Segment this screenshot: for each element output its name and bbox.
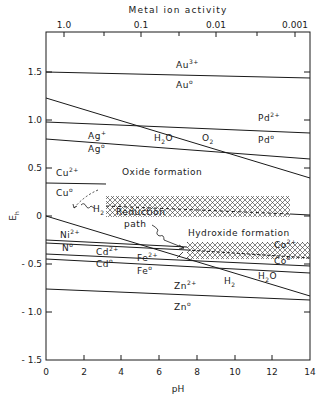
au-line: [46, 72, 310, 78]
x-tick-label: 0: [43, 367, 49, 377]
top-axis-title: Metal ion activity: [128, 5, 227, 15]
zn2-label: Zn2+: [174, 279, 197, 291]
cu-line: [46, 183, 106, 184]
y-tick-label: - 1.5: [22, 355, 42, 365]
y-tick-label: 1.0: [28, 115, 43, 125]
h2-lower-label: H2: [224, 276, 236, 288]
ni0-label: No: [62, 241, 73, 253]
top-tick-label: 0.01: [206, 20, 226, 30]
y-tick-label: - 0.5: [22, 259, 42, 269]
ag-line: [46, 139, 310, 159]
y-tick-label: 0: [36, 211, 42, 221]
co0-label: Coo: [274, 254, 291, 266]
reduction-label: Reduction: [116, 207, 166, 217]
x-tick-label: 4: [118, 367, 124, 377]
x-axis-label: pH: [172, 384, 184, 394]
x-tick-label: 14: [304, 367, 316, 377]
cu2-label: Cu2+: [56, 166, 79, 178]
h2o-upper-label: H2O: [154, 133, 173, 145]
arrow-head-icon: [73, 204, 77, 208]
pd2-label: Pd2+: [258, 111, 280, 123]
ag0-label: Ago: [88, 142, 105, 154]
au0-label: Auo: [176, 78, 193, 90]
reduction-path-arrow: [152, 225, 184, 248]
cd2-label: Cd2+: [96, 245, 119, 257]
x-tick-label: 8: [194, 367, 200, 377]
top-tick-label: 0.001: [282, 20, 308, 30]
top-tick-label: 1.0: [57, 20, 72, 30]
ni2-label: Ni2+: [60, 228, 80, 240]
y-tick-label: 0.5: [28, 163, 42, 173]
oxide-formation-label: Oxide formation: [122, 167, 202, 177]
y-tick-label: 1.5: [28, 67, 42, 77]
h2-upper-label: H2: [93, 204, 105, 216]
hydroxide-formation-label: Hydroxide formation: [188, 228, 290, 238]
pourbaix-chart: Metal ion activity 1.0 0.1 0.01 0.001: [0, 0, 320, 397]
y-axis-label: Eh: [8, 211, 20, 221]
cu-line-end: [290, 214, 310, 215]
pd0-label: Pdo: [258, 133, 274, 145]
right-ticks: [304, 72, 310, 312]
x-tick-label: 6: [156, 367, 162, 377]
svg-text:Eh: Eh: [8, 211, 20, 221]
au3-label: Au3+: [176, 58, 199, 70]
x-tick-label: 12: [266, 367, 277, 377]
cd0-label: Cdo: [96, 257, 113, 269]
path-label: path: [124, 219, 146, 229]
cu0-label: Cuo: [56, 186, 73, 198]
y-tick-label: - 1.0: [22, 307, 43, 317]
top-ticks: [64, 32, 295, 37]
left-ticks: [46, 72, 52, 312]
bottom-ticks: [84, 355, 272, 360]
o2-label: O2: [202, 133, 214, 145]
x-tick-label: 10: [229, 367, 241, 377]
fe2-label: Fe2+: [137, 251, 158, 263]
ag-plus-label: Ag+: [88, 129, 106, 141]
pd-line: [46, 122, 310, 133]
x-tick-label: 2: [81, 367, 87, 377]
fe0-label: Feo: [137, 264, 152, 276]
top-tick-label: 0.1: [134, 20, 148, 30]
zn0-label: Zno: [174, 300, 191, 312]
